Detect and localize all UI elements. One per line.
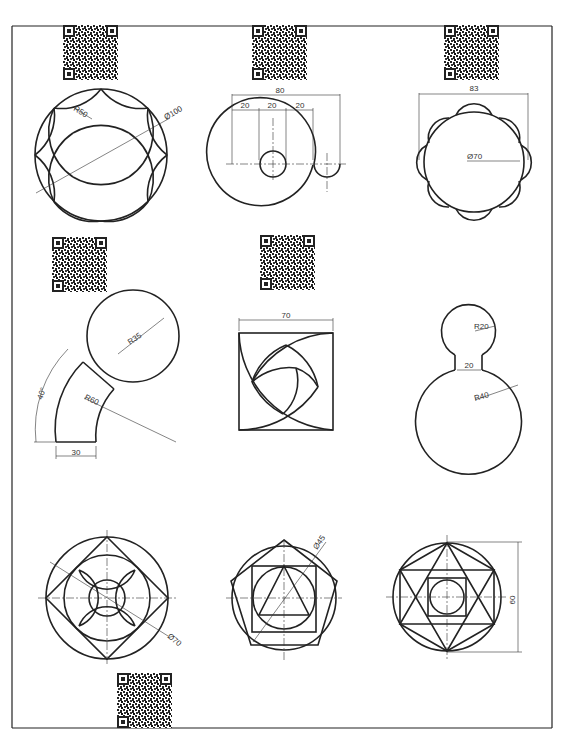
figure-star-circle: R50 Ø100 <box>35 89 184 222</box>
label-83: 83 <box>470 84 479 93</box>
figure-arm-circle: 30 R35 R60 40° <box>34 290 179 459</box>
qr-code-4 <box>52 237 107 292</box>
qr-code-6 <box>117 673 172 728</box>
label-r20: R20 <box>474 322 489 331</box>
label-d70: Ø70 <box>166 632 184 649</box>
label-20a: 20 <box>241 101 250 110</box>
figure-swirl-square: 70 <box>239 311 333 430</box>
drawing-sheet: R50 Ø100 80 20 20 20 <box>0 0 573 748</box>
figure-scalloped-circle: 83 Ø70 <box>417 84 532 220</box>
label-d45: Ø45 <box>311 533 327 551</box>
qr-code-1 <box>63 25 118 80</box>
figure-two-circles: R20 20 R40 <box>416 305 522 475</box>
qr-code-5 <box>260 235 315 290</box>
figure-pentagon: Ø45 <box>226 533 342 660</box>
figure-notched-circle: 80 20 20 20 <box>207 86 348 206</box>
label-20c: 20 <box>296 101 305 110</box>
label-30: 30 <box>72 448 81 457</box>
label-20b: 20 <box>268 101 277 110</box>
qr-code-3 <box>444 25 499 80</box>
label-40deg: 40° <box>35 386 48 400</box>
label-60: 60 <box>508 595 517 604</box>
label-r35: R35 <box>126 331 144 347</box>
label-80: 80 <box>276 86 285 95</box>
label-r50: R50 <box>72 104 90 120</box>
figure-hexagram-circle: 60 <box>386 535 522 660</box>
figure-nested-square-circle: Ø70 <box>38 530 184 666</box>
label-20: 20 <box>465 361 474 370</box>
label-d70: Ø70 <box>467 152 483 161</box>
label-70: 70 <box>282 311 291 320</box>
label-r40: R40 <box>473 390 490 403</box>
qr-code-2 <box>252 25 307 80</box>
sheet-border <box>12 26 552 728</box>
label-d100: Ø100 <box>163 104 185 122</box>
